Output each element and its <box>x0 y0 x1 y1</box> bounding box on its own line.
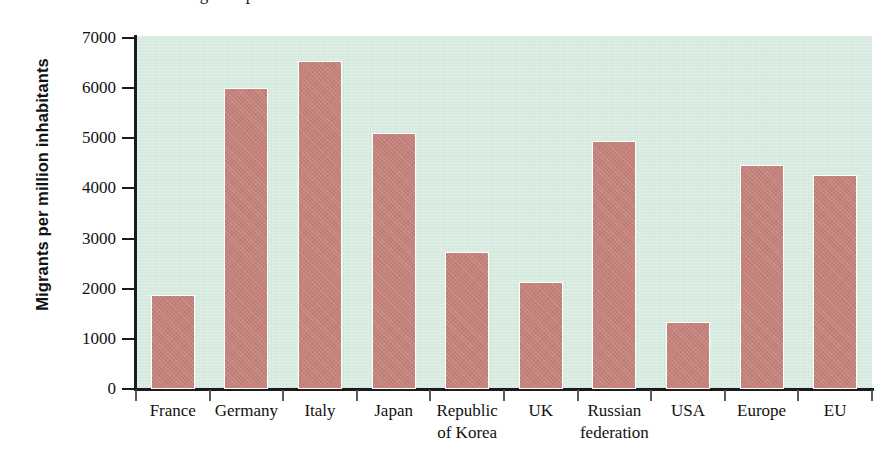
bar-texture <box>593 142 635 388</box>
bar <box>151 295 195 389</box>
x-category-label-line: of Korea <box>407 422 527 444</box>
y-tick-label: 2000 <box>56 279 116 299</box>
bar-texture <box>373 134 415 388</box>
x-category-label-line: EU <box>775 400 884 422</box>
y-tick-mark <box>122 338 135 340</box>
bar <box>813 175 857 389</box>
bar-chart-figure: Migrants per million inhabitants 0100020… <box>0 0 884 465</box>
bar <box>666 322 710 389</box>
bar <box>519 282 563 389</box>
bar <box>740 165 784 389</box>
bar-texture <box>741 166 783 388</box>
x-category-label: EU <box>775 400 884 422</box>
bar <box>592 141 636 389</box>
bar-texture <box>814 176 856 388</box>
bar-texture <box>446 253 488 388</box>
y-tick-label: 6000 <box>56 78 116 98</box>
bar-texture <box>520 283 562 388</box>
y-tick-label: 1000 <box>56 329 116 349</box>
bar <box>298 61 342 389</box>
bar <box>224 88 268 389</box>
y-tick-label: 0 <box>56 379 116 399</box>
bar-texture <box>225 89 267 388</box>
x-category-label-line: federation <box>554 422 674 444</box>
y-tick-mark <box>122 87 135 89</box>
y-tick-label: 7000 <box>56 28 116 48</box>
y-tick-mark <box>122 37 135 39</box>
y-tick-mark <box>122 388 135 390</box>
bar-texture <box>667 323 709 388</box>
y-tick-mark <box>122 288 135 290</box>
y-tick-label: 4000 <box>56 178 116 198</box>
y-tick-label: 3000 <box>56 229 116 249</box>
bar-texture <box>299 62 341 388</box>
bar <box>372 133 416 389</box>
bar-texture <box>152 296 194 388</box>
y-tick-mark <box>122 187 135 189</box>
y-tick-label: 5000 <box>56 128 116 148</box>
y-tick-mark <box>122 137 135 139</box>
bar <box>445 252 489 389</box>
y-tick-mark <box>122 238 135 240</box>
y-axis-title: Migrants per million inhabitants <box>33 25 52 345</box>
